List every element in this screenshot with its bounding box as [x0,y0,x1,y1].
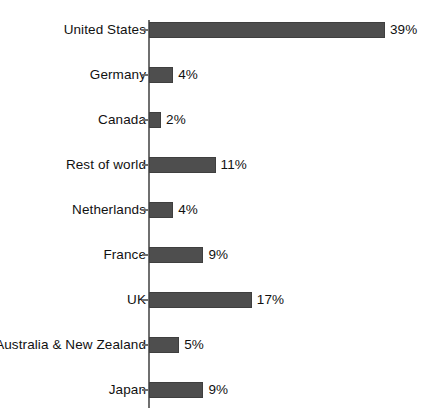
category-label: Rest of world [66,155,146,175]
category-label: Australia & New Zealand [0,335,146,355]
bar-row: UK 17% [0,290,440,310]
bar-row: Rest of world 11% [0,155,440,175]
bar-canada [149,112,161,128]
axis-tick [142,389,149,391]
value-label: 9% [208,245,228,265]
bar-row: Canada 2% [0,110,440,130]
value-label: 5% [184,335,204,355]
axis-tick [142,344,149,346]
value-label: 4% [178,200,198,220]
axis-tick [142,29,149,31]
bar-australia-new-zealand [149,337,179,353]
bar-row: France 9% [0,245,440,265]
category-label: Japan [109,380,146,400]
bar-row: Netherlands 4% [0,200,440,220]
axis-tick [142,299,149,301]
value-label: 2% [166,110,186,130]
bar-uk [149,292,252,308]
axis-tick [142,74,149,76]
value-label: 4% [178,65,198,85]
bar-germany [149,67,173,83]
axis-tick [142,209,149,211]
category-label: Netherlands [72,200,146,220]
category-label: United States [64,20,146,40]
value-label: 9% [208,380,228,400]
category-label: France [103,245,146,265]
axis-tick [142,164,149,166]
bar-row: Australia & New Zealand 5% [0,335,440,355]
bar-row: Germany 4% [0,65,440,85]
bar-japan [149,382,203,398]
horizontal-bar-chart: United States 39% Germany 4% Canada 2% R… [0,0,440,416]
bar-france [149,247,203,263]
axis-tick [142,254,149,256]
bar-netherlands [149,202,173,218]
value-label: 17% [257,290,284,310]
value-label: 11% [221,155,247,175]
axis-tick [142,119,149,121]
category-label: Germany [90,65,146,85]
bar-rest-of-world [149,157,216,173]
bar-row: United States 39% [0,20,440,40]
bar-united-states [149,22,385,38]
value-label: 39% [390,20,417,40]
category-label: Canada [98,110,146,130]
bar-row: Japan 9% [0,380,440,400]
